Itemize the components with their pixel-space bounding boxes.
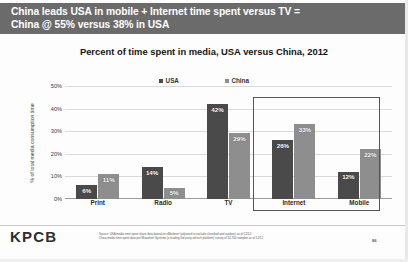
bar-label-internet-usa: 26% — [277, 142, 289, 149]
bar-tv-china[interactable]: 29% — [229, 133, 250, 199]
bar-label-tv-usa: 42% — [211, 106, 223, 113]
bar-group-print: 6% 11% — [65, 86, 130, 199]
x-label-mobile: Mobile — [327, 199, 392, 206]
chart-title: Percent of time spent in media, USA vers… — [0, 46, 408, 57]
bar-label-mobile-usa: 12% — [342, 173, 354, 180]
bar-label-radio-china: 5% — [170, 189, 179, 196]
bar-series-container: 6% 11% 14% 5% 42% — [65, 86, 392, 199]
bar-label-radio-usa: 14% — [146, 169, 158, 176]
y-axis-title: % of total media consumption time — [26, 86, 38, 199]
bar-radio-china[interactable]: 5% — [164, 188, 185, 199]
x-label-radio: Radio — [130, 199, 195, 206]
bar-internet-usa[interactable]: 26% — [272, 140, 293, 199]
y-tick-50: 50% — [51, 83, 62, 89]
legend-label-china: China — [231, 77, 249, 84]
footer-divider — [0, 225, 408, 226]
y-tick-40: 40% — [51, 106, 62, 112]
y-tick-20: 20% — [51, 151, 62, 157]
bar-mobile-china[interactable]: 22% — [360, 149, 381, 199]
legend-swatch-china-icon — [225, 79, 229, 83]
bar-group-radio: 14% 5% — [130, 86, 195, 199]
bar-mobile-usa[interactable]: 12% — [338, 172, 359, 199]
bar-label-print-usa: 6% — [82, 187, 91, 194]
slide-headline: China leads USA in mobile + Internet tim… — [0, 6, 300, 31]
bar-group-tv: 42% 29% — [196, 86, 261, 199]
legend-swatch-usa-icon — [159, 79, 163, 83]
bar-radio-usa[interactable]: 14% — [142, 167, 163, 199]
kpcb-logo: KPCB — [10, 228, 57, 245]
bar-label-tv-china: 29% — [233, 135, 245, 142]
slide-canvas: China leads USA in mobile + Internet tim… — [0, 0, 408, 262]
legend-item-usa: USA — [159, 77, 179, 84]
chart-plot-area: % of total media consumption time 50% 40… — [32, 86, 392, 199]
chart-gridlines: 6% 11% 14% 5% 42% — [65, 86, 392, 199]
x-label-print: Print — [65, 199, 130, 206]
x-label-internet: Internet — [261, 199, 326, 206]
x-axis-labels: Print Radio TV Internet Mobile — [65, 199, 392, 206]
y-tick-10: 10% — [51, 173, 62, 179]
y-axis-ticks: 50% 40% 30% 20% 10% 0% — [42, 86, 64, 199]
legend-label-usa: USA — [166, 77, 179, 84]
bar-internet-china[interactable]: 33% — [294, 124, 315, 199]
bar-group-internet: 26% 33% — [261, 86, 326, 199]
bar-tv-usa[interactable]: 42% — [207, 104, 228, 199]
bar-label-print-china: 11% — [103, 176, 115, 183]
page-number: 86 — [372, 238, 377, 243]
slide-header-banner: China leads USA in mobile + Internet tim… — [0, 3, 408, 34]
bar-label-internet-china: 33% — [299, 126, 311, 133]
legend-item-china: China — [225, 77, 249, 84]
x-label-tv: TV — [196, 199, 261, 206]
y-tick-0: 0% — [54, 196, 62, 202]
bar-label-mobile-china: 22% — [364, 151, 376, 158]
source-note: Source: USA media time spent share data … — [99, 232, 347, 240]
bar-group-mobile: 12% 22% — [327, 86, 392, 199]
bar-print-china[interactable]: 11% — [98, 174, 119, 199]
y-tick-30: 30% — [51, 128, 62, 134]
bar-print-usa[interactable]: 6% — [76, 185, 97, 199]
